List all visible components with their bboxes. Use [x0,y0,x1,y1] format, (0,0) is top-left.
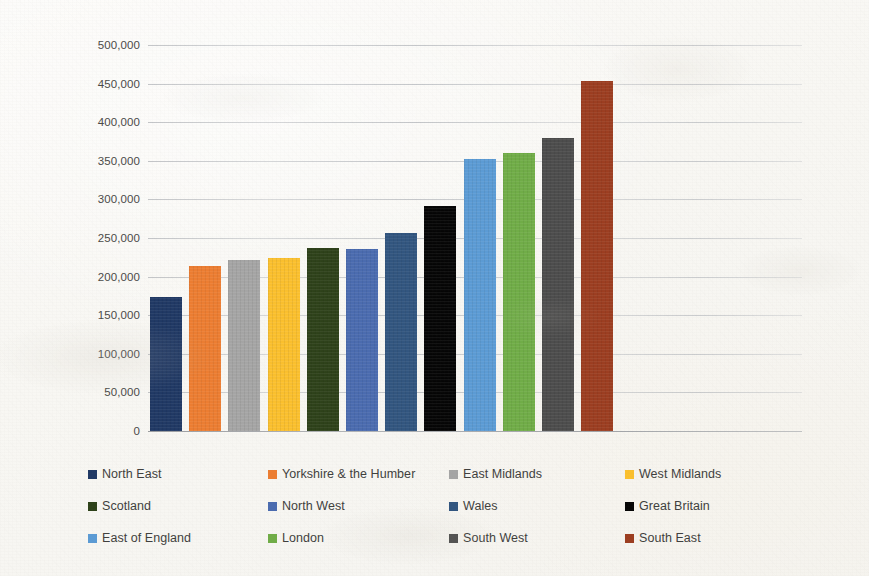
bar[interactable] [189,266,221,431]
y-axis-tick-label: 350,000 [56,155,140,167]
y-axis-tick-label: 50,000 [56,386,140,398]
legend-swatch-icon [268,470,277,479]
chart-legend: North EastYorkshire & the HumberEast Mid… [0,455,869,551]
legend-label: Wales [463,499,498,513]
legend-label: East Midlands [463,467,542,481]
bar[interactable] [346,249,378,431]
bar[interactable] [307,248,339,431]
bar[interactable] [503,153,535,431]
legend-item[interactable]: North East [88,467,162,481]
legend-item[interactable]: Scotland [88,499,151,513]
legend-label: West Midlands [639,467,721,481]
bar[interactable] [150,297,182,431]
bar-texture [346,249,378,431]
bar-texture [385,233,417,431]
bar-texture [542,138,574,431]
y-axis-tick-label: 450,000 [56,78,140,90]
legend-item[interactable]: Great Britain [625,499,710,513]
bar-texture [424,206,456,431]
legend-item[interactable]: London [268,531,324,545]
legend-label: Scotland [102,499,151,513]
legend-label: London [282,531,324,545]
legend-item[interactable]: East Midlands [449,467,542,481]
y-axis-tick-label: 250,000 [56,232,140,244]
plot-area [148,45,802,431]
bar-texture [581,81,613,431]
legend-label: South East [639,531,701,545]
bar[interactable] [424,206,456,431]
legend-label: North West [282,499,345,513]
legend-item[interactable]: South West [449,531,528,545]
legend-item[interactable]: East of England [88,531,191,545]
bar[interactable] [542,138,574,431]
bar[interactable] [268,258,300,431]
legend-swatch-icon [268,534,277,543]
bar-texture [307,248,339,431]
y-axis-tick-label: 200,000 [56,271,140,283]
legend-label: East of England [102,531,191,545]
bar-texture [189,266,221,431]
legend-swatch-icon [268,502,277,511]
legend-label: Yorkshire & the Humber [282,467,415,481]
legend-item[interactable]: Wales [449,499,498,513]
legend-label: Great Britain [639,499,710,513]
legend-label: North East [102,467,162,481]
bar-texture [150,297,182,431]
legend-swatch-icon [88,502,97,511]
y-axis-tick-label: 300,000 [56,193,140,205]
bar[interactable] [385,233,417,431]
legend-item[interactable]: West Midlands [625,467,721,481]
gridline [148,431,802,432]
bar-texture [268,258,300,431]
y-axis-tick-label: 100,000 [56,348,140,360]
bar[interactable] [228,260,260,431]
bar-texture [464,159,496,431]
legend-label: South West [463,531,528,545]
legend-swatch-icon [625,470,634,479]
y-axis-tick-label: 400,000 [56,116,140,128]
legend-item[interactable]: North West [268,499,345,513]
legend-item[interactable]: Yorkshire & the Humber [268,467,415,481]
legend-swatch-icon [625,502,634,511]
y-axis-tick-label: 500,000 [56,39,140,51]
chart-page: 500,000450,000400,000350,000300,000250,0… [0,0,869,576]
bar-texture [503,153,535,431]
legend-swatch-icon [88,534,97,543]
legend-swatch-icon [625,534,634,543]
bar[interactable] [581,81,613,431]
bar-texture [228,260,260,431]
bar[interactable] [464,159,496,431]
legend-item[interactable]: South East [625,531,701,545]
y-axis-tick-label: 0 [56,425,140,437]
legend-swatch-icon [449,470,458,479]
legend-swatch-icon [88,470,97,479]
legend-swatch-icon [449,534,458,543]
y-axis-tick-label: 150,000 [56,309,140,321]
legend-swatch-icon [449,502,458,511]
